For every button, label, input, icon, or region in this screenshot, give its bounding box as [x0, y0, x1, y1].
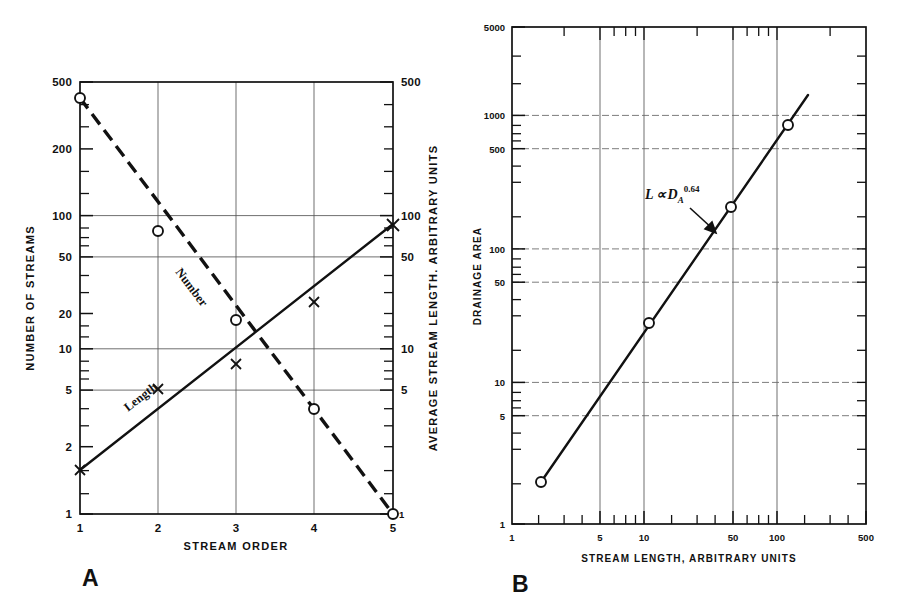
- panel-b-y-axis-title: DRAINAGE AREA: [472, 227, 483, 325]
- panel-b-point-1: [536, 477, 546, 487]
- panel-b-xtick-2: 10: [639, 532, 650, 543]
- panel-a-right-tick-labels: 500 100 50 10 5 1: [399, 76, 421, 520]
- panel-b-point-3: [726, 202, 736, 212]
- panel-b-ytick-2: 500: [489, 144, 505, 155]
- panel-a-right-major-ticks: [380, 82, 393, 514]
- panel-a-ytick-left-8: 1: [65, 508, 72, 520]
- panel-b-x-top-ticks: [564, 27, 830, 40]
- panel-b-point-4: [783, 120, 793, 130]
- panel-a-xtick-2: 3: [233, 522, 240, 534]
- panel-a-ytick-left-1: 200: [52, 143, 72, 155]
- panel-a-ytick-left-6: 5: [65, 384, 72, 396]
- panel-b-vertical-gridlines: [600, 27, 777, 524]
- panel-a-number-point-3: [231, 315, 241, 325]
- panel-a-ytick-left-3: 50: [59, 251, 72, 263]
- panel-b-y-minor-ticks: [512, 56, 521, 484]
- panel-b-plot-frame: [512, 27, 866, 524]
- panel-a-ytick-right-0: 500: [401, 76, 421, 88]
- annotation-lhs: L: [644, 187, 654, 202]
- panel-b-x-minor-ticks: [539, 515, 849, 524]
- panel-b-y-tick-labels: 5000 1000 500 100 50 10 5 1: [484, 22, 506, 530]
- panel-a-xtick-1: 2: [155, 522, 162, 534]
- panel-b-ytick-7: 1: [500, 519, 506, 530]
- panel-a-series-number: Number: [75, 93, 398, 519]
- annotation-sub: A: [677, 195, 684, 205]
- panel-b-annotation-text: L∝DA0.64: [644, 184, 700, 205]
- panel-a-curve-label-number: Number: [173, 265, 211, 309]
- panel-a-y-axis-title-left: NUMBER OF STREAMS: [24, 225, 36, 371]
- panel-a-ytick-right-1: 100: [401, 210, 421, 222]
- panel-b-annotation: L∝DA0.64: [644, 184, 716, 233]
- panel-a-x-axis-title: STREAM ORDER: [184, 540, 289, 552]
- panel-a-xtick-4: 5: [390, 522, 397, 534]
- panel-a-ytick-right-5: 1: [399, 509, 405, 520]
- panel-b-xtick-4: 100: [769, 532, 785, 543]
- panel-b-ytick-5: 10: [494, 377, 505, 388]
- panel-a-ytick-left-0: 500: [52, 76, 72, 88]
- panel-a-ytick-left-7: 2: [65, 441, 72, 453]
- annotation-base: D: [667, 187, 678, 202]
- panel-b-ytick-4: 50: [494, 277, 505, 288]
- panel-a-right-minor-ticks: [384, 105, 393, 494]
- panel-a-ytick-right-2: 50: [401, 251, 414, 263]
- panel-a-xtick-3: 4: [311, 522, 318, 534]
- panel-a-number-point-4: [309, 404, 319, 414]
- panel-b-xtick-0: 1: [509, 532, 515, 543]
- panel-a-ytick-left-5: 10: [59, 343, 72, 355]
- panel-a-vertical-gridlines: [158, 82, 314, 514]
- panel-a-number-point-2: [153, 226, 163, 236]
- panel-a-letter: A: [82, 565, 99, 591]
- panel-b-point-2: [644, 318, 654, 328]
- panel-a-y-axis-title-right: AVERAGE STREAM LENGTH. ARBITRARY UNITS: [427, 145, 439, 452]
- panel-a-ytick-right-3: 10: [401, 343, 414, 355]
- panel-b-ytick-1: 1000: [484, 110, 505, 121]
- panel-b-y-right-ticks: [857, 56, 866, 484]
- panel-b-ytick-6: 5: [500, 411, 506, 422]
- panel-b-xtick-1: 5: [597, 532, 603, 543]
- panel-b: 5000 1000 500 100 50 10 5 1: [472, 22, 874, 597]
- panel-b-x-axis-title: STREAM LENGTH, ARBITRARY UNITS: [581, 553, 796, 564]
- panel-a-curve-label-length: Length: [121, 380, 160, 415]
- panel-b-x-major-ticks: [600, 511, 866, 524]
- figure-svg: 500 200 100 50 20 10 5 2 1: [0, 0, 898, 616]
- panel-a-ytick-left-4: 20: [59, 308, 72, 320]
- panel-b-annotation-arrow-icon: [690, 208, 716, 233]
- annotation-prop: ∝: [656, 187, 667, 202]
- annotation-exp: 0.64: [684, 184, 700, 194]
- panel-a-series-length: Length: [75, 219, 399, 475]
- panel-a-number-point-5: [388, 509, 398, 519]
- panel-b-series-drainage: [536, 95, 808, 487]
- panel-b-ytick-0: 5000: [484, 22, 505, 33]
- panel-a-xtick-0: 1: [77, 522, 84, 534]
- panel-b-x-tick-labels: 1 5 10 50 100 500: [509, 532, 874, 543]
- panel-b-letter: B: [512, 571, 529, 597]
- panel-b-xtick-5: 500: [858, 532, 874, 543]
- panel-a-left-minor-ticks: [80, 105, 89, 494]
- figure-container: 500 200 100 50 20 10 5 2 1: [0, 0, 898, 616]
- panel-a: 500 200 100 50 20 10 5 2 1: [24, 76, 439, 591]
- panel-a-ytick-right-4: 5: [401, 384, 408, 396]
- panel-b-ytick-3: 100: [489, 244, 505, 255]
- panel-a-left-tick-labels: 500 200 100 50 20 10 5 2 1: [52, 76, 72, 520]
- panel-a-ytick-left-2: 100: [52, 210, 72, 222]
- panel-a-number-point-1: [75, 93, 85, 103]
- panel-a-left-major-ticks: [80, 82, 93, 514]
- panel-b-xtick-3: 50: [728, 532, 739, 543]
- panel-a-xtick-labels: 1 2 3 4 5: [77, 522, 397, 534]
